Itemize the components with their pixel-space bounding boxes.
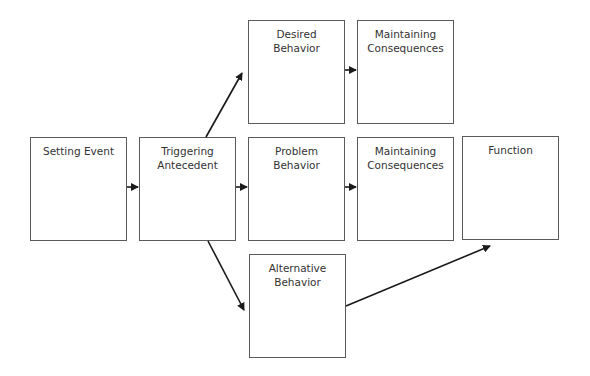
edge-triggering-to-desired xyxy=(206,73,242,137)
edges-layer xyxy=(0,0,590,376)
edge-alternative-to-function xyxy=(346,246,490,306)
edge-triggering-to-alternative xyxy=(208,241,244,310)
